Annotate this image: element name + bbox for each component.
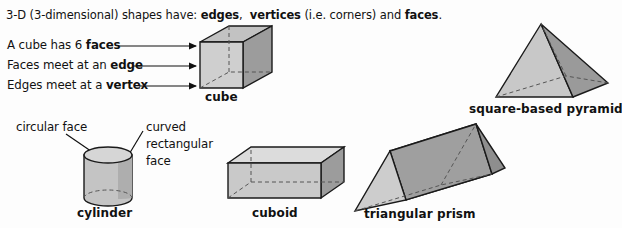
callout-vertex-plain: Edges meet at a <box>7 78 106 92</box>
callout-faces: A cube has 6 faces <box>7 39 120 51</box>
prism-right-end-face <box>476 124 505 174</box>
callout-vertex-bold: vertex <box>106 78 148 92</box>
pyramid-right-face <box>541 24 608 97</box>
cylinder-body-shading <box>118 155 132 199</box>
shape-label-triangular-prism: triangular prism <box>364 208 476 221</box>
shapes-diagram-page: 3-D (3-dimensional) shapes have: edges, … <box>0 0 622 228</box>
cylinder-hidden-bottom-edge <box>84 190 132 198</box>
cropped-title-remnant <box>0 0 622 5</box>
callout-edge-plain: Faces meet at an <box>7 58 110 72</box>
callout-curved-line3: face <box>146 155 171 167</box>
intro-sentence: 3-D (3-dimensional) shapes have: edges, … <box>6 9 442 21</box>
cylinder-body <box>84 155 132 206</box>
shape-label-cuboid: cuboid <box>252 207 298 220</box>
cuboid-right-face <box>321 147 344 198</box>
cube-top-face <box>200 26 272 42</box>
intro-bold-edges: edges <box>201 8 239 22</box>
intro-text-1: 3-D (3-dimensional) shapes have: <box>6 8 201 22</box>
callout-vertex: Edges meet at a vertex <box>7 79 148 91</box>
callout-edge-bold: edge <box>110 58 143 72</box>
intro-text-3: (i.e. corners) and <box>301 8 405 22</box>
intro-text-4: . <box>438 8 442 22</box>
intro-text-2: , <box>239 8 250 22</box>
pyramid-left-face <box>496 24 573 97</box>
intro-bold-faces: faces <box>405 8 439 22</box>
callout-faces-plain: A cube has 6 <box>7 38 86 52</box>
pyramid-hidden-edges <box>496 24 608 97</box>
prism-hidden-edges <box>355 124 492 211</box>
shape-label-square-based-pyramid: square-based pyramid <box>469 103 622 116</box>
callout-curved-line2: rectangular <box>146 138 213 150</box>
shape-label-cube: cube <box>205 91 238 104</box>
cube-hidden-edges <box>200 26 272 88</box>
cube-front-face <box>200 42 243 88</box>
cylinder-top-face <box>84 147 132 163</box>
arrow-circular-face <box>66 134 101 158</box>
prism-left-triangle-face <box>355 151 406 211</box>
intro-bold-vertices: vertices <box>250 8 301 22</box>
arrow-curved-face <box>113 131 143 181</box>
shape-label-cylinder: cylinder <box>77 207 132 220</box>
callout-curved-line1: curved <box>146 121 186 133</box>
prism-far-face <box>390 124 492 200</box>
cuboid-front-face <box>228 163 321 198</box>
prism-main-face <box>390 124 492 200</box>
callout-faces-bold: faces <box>86 38 121 52</box>
cuboid-top-face <box>228 147 344 163</box>
callout-circular-face: circular face <box>16 121 87 133</box>
cuboid-hidden-edges <box>228 147 344 198</box>
cube-right-face <box>243 26 272 88</box>
callout-edge: Faces meet at an edge <box>7 59 143 71</box>
